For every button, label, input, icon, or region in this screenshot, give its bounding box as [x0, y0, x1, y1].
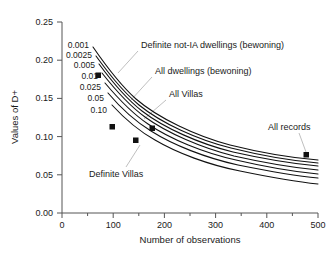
x-tick-4: 400	[259, 220, 274, 230]
y-tick-1: 0.05	[35, 170, 53, 180]
pvalue-label-1: 0.0025	[66, 50, 92, 60]
marker-all-records	[304, 152, 310, 158]
x-tick-5: 500	[310, 220, 325, 230]
leader-all-records	[299, 133, 306, 152]
y-tick-4: 0.20	[35, 55, 53, 65]
x-tick-2: 200	[157, 220, 172, 230]
marker-definite-villas	[133, 138, 139, 144]
y-axis-tick-labels: 0.00 0.05 0.10 0.15 0.20 0.25	[35, 17, 53, 218]
y-axis-ticks	[57, 22, 62, 213]
annotation-all-villas: All Villas	[169, 89, 203, 99]
x-axis-ticks	[62, 213, 318, 218]
y-tick-2: 0.10	[35, 132, 53, 142]
x-axis-title: Number of observations	[140, 234, 241, 245]
significance-curves-chart: 0.00 0.05 0.10 0.15 0.20 0.25 0 100 200	[0, 0, 333, 267]
marker-all-villas	[150, 126, 156, 132]
annotation-definite-villas: Definite Villas	[89, 169, 144, 179]
y-tick-5: 0.25	[35, 17, 53, 27]
chart-container: 0.00 0.05 0.10 0.15 0.20 0.25 0 100 200	[0, 0, 333, 267]
pvalue-label-0: 0.001	[68, 40, 90, 50]
annotation-definite-not-ia-dwellings: Definite not-IA dwellings (bewoning)	[141, 40, 284, 50]
data-point-markers	[96, 73, 310, 158]
leader-definite-not-ia	[118, 51, 138, 73]
curve-p-0.005	[99, 64, 318, 166]
y-tick-3: 0.15	[35, 93, 53, 103]
x-tick-0: 0	[59, 220, 64, 230]
y-tick-0: 0.00	[35, 208, 53, 218]
leader-definite-villas	[126, 145, 140, 167]
annotation-all-records: All records	[268, 122, 311, 132]
leader-all-dwellings	[131, 77, 152, 100]
pvalue-label-6: 0.10	[90, 105, 107, 115]
x-axis-tick-labels: 0 100 200 300 400 500	[59, 220, 325, 230]
x-tick-1: 100	[106, 220, 121, 230]
pvalue-label-4: 0.025	[80, 82, 102, 92]
marker-definite-not-ia	[96, 73, 102, 79]
x-tick-3: 300	[208, 220, 223, 230]
pvalue-label-2: 0.005	[74, 60, 96, 70]
marker-all-dwellings	[110, 124, 116, 130]
annotation-all-dwellings: All dwellings (bewoning)	[155, 66, 252, 76]
y-axis-title: Values of D+	[9, 90, 20, 144]
pvalue-label-5: 0.05	[87, 93, 104, 103]
pvalue-labels: 0.001 0.0025 0.005 0.01 0.025 0.05 0.10	[66, 40, 107, 115]
